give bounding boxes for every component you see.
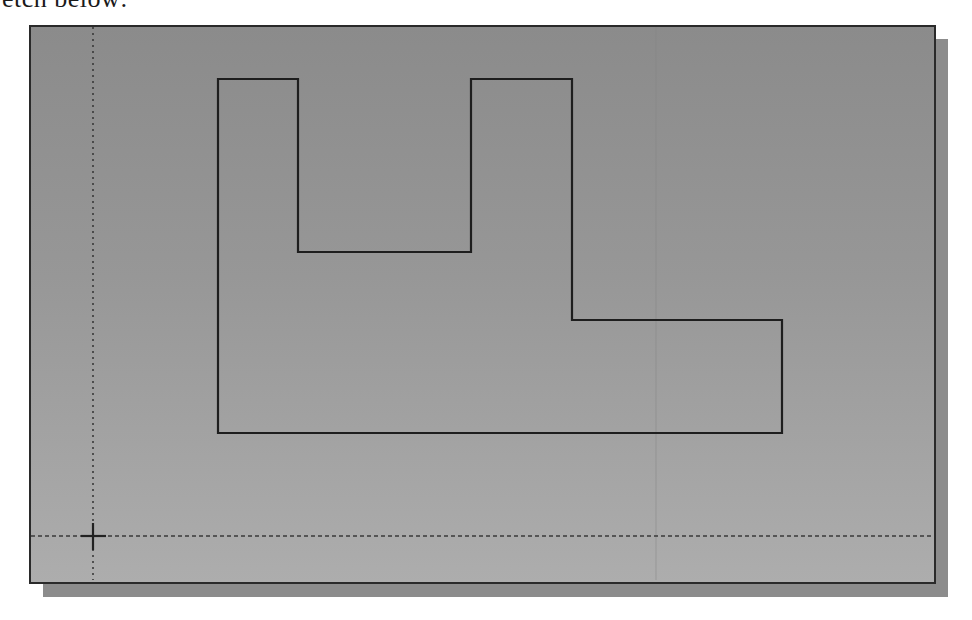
sketch-profile[interactable] [218, 79, 782, 433]
origin-crosshair-icon [81, 523, 106, 550]
sketch-canvas[interactable] [0, 0, 972, 620]
